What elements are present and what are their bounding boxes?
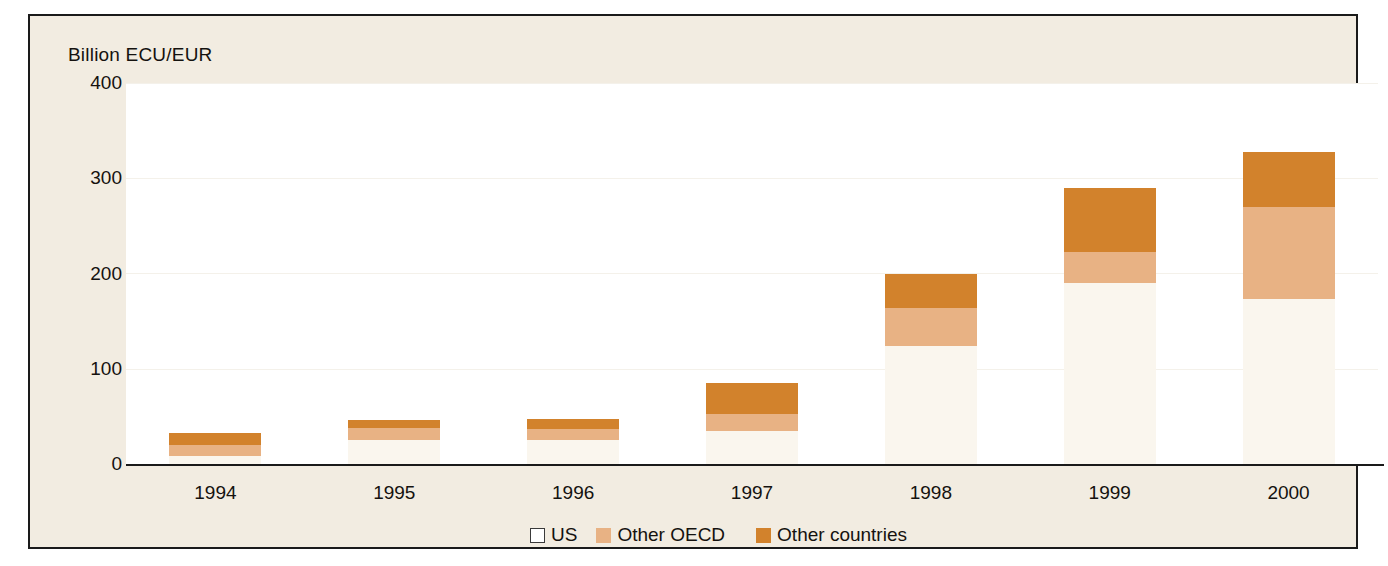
x-tick-label: 1999 [1089,482,1131,504]
legend-label: US [551,524,577,546]
bar-stack [885,274,977,464]
bar-group-1996 [484,83,663,464]
bar-segment [169,456,261,464]
y-tick-label: 300 [36,167,122,189]
other-oecd-swatch [596,528,611,543]
bar-segment [706,383,798,414]
bar-group-1999 [1020,83,1199,464]
bar-segment [1064,188,1156,252]
legend-label: Other countries [777,524,907,546]
bar-segment [169,445,261,456]
bar-segment [527,419,619,429]
bar-segment [1243,152,1335,207]
chart-legend: USOther OECDOther countries [30,524,1388,546]
bar-segment [348,440,440,464]
x-tick-label: 2000 [1267,482,1309,504]
bar-segment [527,440,619,464]
y-tick-label: 400 [36,72,122,94]
bar-segment [1064,252,1156,283]
bar-segment [706,431,798,464]
bar-segment [348,428,440,440]
bar-segment [1243,207,1335,299]
bar-segment [885,346,977,464]
bar-segment [1243,299,1335,464]
bar-group-1995 [305,83,484,464]
bar-stack [706,383,798,464]
y-axis-tick-labels: 0100200300400 [30,16,122,566]
legend-item[interactable]: Other countries [756,524,907,546]
y-tick-label: 0 [36,453,122,475]
bar-group-1998 [841,83,1020,464]
bar-series-container [126,83,1378,464]
other-countries-swatch [756,528,771,543]
x-tick-label: 1998 [910,482,952,504]
x-tick-label: 1996 [552,482,594,504]
x-tick-label: 1994 [194,482,236,504]
bar-group-1994 [126,83,305,464]
bar-group-1997 [663,83,842,464]
y-tick-label: 100 [36,358,122,380]
bar-segment [169,433,261,445]
bar-segment [885,274,977,308]
x-axis-baseline [126,464,1384,466]
bar-stack [1243,152,1335,464]
x-tick-label: 1997 [731,482,773,504]
legend-item[interactable]: US [530,524,577,546]
bar-segment [885,308,977,346]
bar-segment [1064,283,1156,464]
bar-segment [527,429,619,440]
bar-stack [169,433,261,464]
bar-group-2000 [1199,83,1378,464]
bar-stack [1064,188,1156,464]
bar-segment [706,414,798,430]
x-axis-tick-labels: 1994199519961997199819992000 [126,482,1378,512]
chart-frame: Billion ECU/EUR 0100200300400 1994199519… [28,14,1358,549]
bar-stack [348,420,440,464]
legend-label: Other OECD [617,524,725,546]
bar-segment [348,420,440,428]
x-tick-label: 1995 [373,482,415,504]
us-swatch [530,528,545,543]
y-tick-label: 200 [36,263,122,285]
bar-stack [527,419,619,464]
legend-item[interactable]: Other OECD [596,524,725,546]
